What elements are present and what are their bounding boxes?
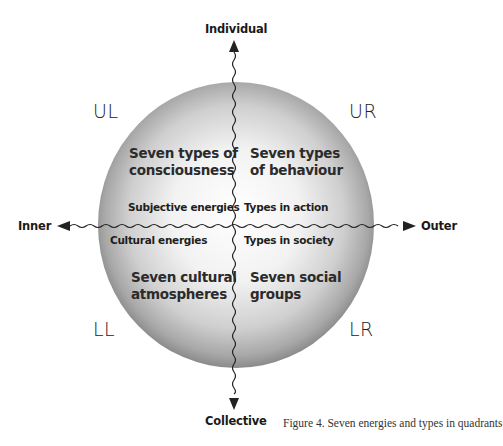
- quadrant-title-ul: Seven types of consciousness: [129, 145, 238, 179]
- quadrant-title-ll-line2: atmospheres: [131, 286, 237, 303]
- quadrant-subtitle-lr: Types in society: [244, 234, 334, 246]
- arrow-up-icon: [229, 40, 239, 52]
- arrow-left-icon: [57, 221, 70, 231]
- quadrant-title-ur: Seven types of behaviour: [250, 145, 343, 179]
- axis-label-collective: Collective: [205, 414, 267, 428]
- figure-caption: Figure 4. Seven energies and types in qu…: [283, 417, 503, 429]
- quadrant-code-ll: LL: [93, 318, 115, 340]
- quadrant-subtitle-ul: Subjective energies: [128, 201, 239, 213]
- axis-label-individual: Individual: [205, 22, 267, 36]
- quadrant-title-lr-line2: groups: [250, 286, 341, 303]
- quadrant-title-ur-line2: of behaviour: [250, 162, 343, 179]
- quadrant-code-lr: LR: [349, 318, 374, 340]
- quadrant-code-ur: UR: [349, 100, 377, 122]
- quadrant-title-ll-line1: Seven cultural: [131, 269, 237, 286]
- arrow-right-icon: [403, 221, 416, 231]
- quadrant-title-lr: Seven social groups: [250, 269, 341, 303]
- quadrant-title-ul-line1: Seven types of: [129, 145, 238, 162]
- quadrant-title-ul-line2: consciousness: [129, 162, 238, 179]
- quadrant-title-ur-line1: Seven types: [250, 145, 343, 162]
- quadrant-title-lr-line1: Seven social: [250, 269, 341, 286]
- axis-label-inner: Inner: [18, 219, 51, 233]
- arrow-down-icon: [229, 398, 239, 410]
- quadrant-code-ul: UL: [93, 100, 119, 122]
- quadrant-subtitle-ur: Types in action: [244, 201, 328, 213]
- quadrant-subtitle-ll: Cultural energies: [110, 234, 207, 246]
- axis-label-outer: Outer: [421, 219, 457, 233]
- quadrant-title-ll: Seven cultural atmospheres: [131, 269, 237, 303]
